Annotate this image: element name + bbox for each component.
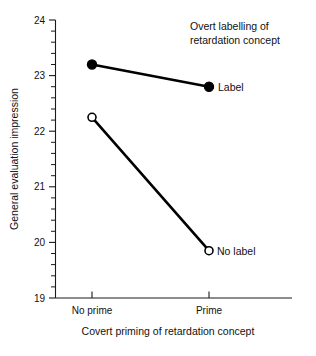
y-tick-label-22: 22 bbox=[34, 126, 46, 137]
y-axis-minor-ticks bbox=[51, 31, 56, 287]
y-tick-label-21: 21 bbox=[34, 181, 46, 192]
series-label-endpoint-label: Label bbox=[218, 81, 244, 93]
series-label-line bbox=[92, 65, 209, 87]
x-tick-label-prime: Prime bbox=[196, 305, 223, 316]
series-label-point-prime bbox=[204, 82, 213, 91]
y-axis-tick-labels: 24 23 22 21 20 19 bbox=[34, 15, 46, 304]
series-no-label-line bbox=[92, 117, 209, 250]
y-tick-label-19: 19 bbox=[34, 293, 46, 304]
y-axis-title: General evaluation impression bbox=[8, 88, 20, 230]
annotation-line-2: retardation concept bbox=[190, 34, 280, 46]
y-tick-label-20: 20 bbox=[34, 237, 46, 248]
interaction-line-chart: 24 23 22 21 20 19 No prime Prime Label bbox=[0, 0, 316, 356]
series-no-label-endpoint-label: No label bbox=[217, 245, 256, 257]
x-axis-tick-labels: No prime Prime bbox=[72, 305, 223, 316]
x-tick-label-no-prime: No prime bbox=[72, 305, 113, 316]
y-tick-label-24: 24 bbox=[34, 15, 46, 26]
series-label-point-no-prime bbox=[87, 60, 96, 69]
series-label: Label bbox=[87, 60, 243, 93]
chart-figure: 24 23 22 21 20 19 No prime Prime Label bbox=[0, 0, 316, 356]
annotation-line-1: Overt labelling of bbox=[190, 20, 269, 32]
overt-labelling-annotation: Overt labelling of retardation concept bbox=[190, 20, 280, 46]
y-tick-label-23: 23 bbox=[34, 70, 46, 81]
y-axis-major-ticks bbox=[49, 20, 56, 298]
series-no-label-point-prime bbox=[205, 247, 213, 255]
x-axis-title: Covert priming of retardation concept bbox=[82, 325, 255, 337]
x-axis-ticks bbox=[92, 292, 209, 299]
series-no-label: No label bbox=[88, 113, 256, 256]
series-no-label-point-no-prime bbox=[88, 113, 96, 121]
